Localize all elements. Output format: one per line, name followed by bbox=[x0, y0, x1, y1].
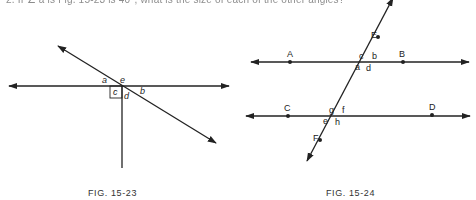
point-d-dot bbox=[430, 113, 434, 117]
angle-label-h: h bbox=[335, 117, 340, 127]
angle-label-a: a bbox=[355, 62, 360, 72]
angle-label-d: d bbox=[366, 63, 371, 73]
point-f-dot bbox=[318, 138, 322, 142]
figure-15-24: A B C D E F c b a d g f e h FIG. 15-24 bbox=[246, 0, 470, 198]
point-b-dot bbox=[401, 60, 405, 64]
angle-label-c: c bbox=[113, 87, 118, 97]
point-label-b: B bbox=[399, 49, 405, 59]
point-label-a: A bbox=[287, 49, 293, 59]
angle-label-b: b bbox=[372, 51, 377, 61]
figure-15-23: a e c d b FIG. 15-23 bbox=[9, 46, 229, 198]
transversal-ef bbox=[307, 0, 393, 161]
point-label-f: F bbox=[313, 133, 319, 143]
angle-label-f: f bbox=[342, 105, 345, 115]
figures-canvas: a e c d b FIG. 15-23 A B C D E F c b a d… bbox=[0, 0, 476, 200]
angle-label-e: e bbox=[120, 75, 125, 85]
angle-label-a: a bbox=[102, 75, 107, 85]
transversal-line bbox=[58, 46, 216, 143]
point-label-e: E bbox=[371, 30, 377, 40]
figure-caption: FIG. 15-24 bbox=[326, 188, 375, 198]
figure-caption: FIG. 15-23 bbox=[88, 188, 137, 198]
angle-label-d: d bbox=[124, 91, 130, 101]
point-a-dot bbox=[288, 60, 292, 64]
point-label-c: C bbox=[284, 103, 291, 113]
angle-label-e: e bbox=[323, 116, 328, 126]
angle-label-g: g bbox=[329, 105, 334, 115]
point-label-d: D bbox=[429, 102, 436, 112]
angle-label-b: b bbox=[140, 86, 145, 96]
angle-label-c: c bbox=[359, 51, 364, 61]
point-c-dot bbox=[286, 114, 290, 118]
